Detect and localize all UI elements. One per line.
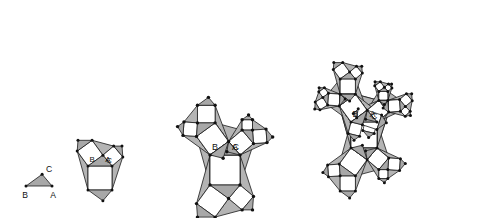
vertex-dot — [240, 118, 243, 121]
vertex-dot — [352, 139, 355, 142]
vertex-dot — [350, 121, 353, 124]
vertex-dot — [386, 90, 389, 93]
vertex-dot — [213, 104, 216, 107]
vertex-dot — [379, 80, 382, 83]
vertex-dot — [377, 99, 380, 102]
vertex-dot — [405, 92, 408, 95]
square-face — [210, 155, 240, 185]
vertex-dot — [361, 123, 364, 126]
vertex-dot — [347, 132, 350, 135]
vertex-label-b: B — [353, 109, 359, 119]
vertex-dot — [367, 136, 370, 139]
vertex-dot — [321, 96, 324, 99]
vertex-dot — [377, 177, 380, 180]
vertex-dot — [387, 82, 390, 85]
vertex-dot — [361, 144, 364, 147]
vertex-dot — [399, 110, 402, 113]
vertex-dot — [318, 86, 321, 89]
vertex-label-a: A — [50, 190, 56, 200]
vertex-dot — [51, 185, 54, 188]
square-face — [197, 105, 215, 123]
vertex-dot — [350, 147, 353, 150]
vertex-dot — [383, 181, 386, 184]
vertex-dot — [327, 92, 330, 95]
vertex-dot — [382, 107, 385, 110]
vertex-dot — [121, 145, 124, 148]
vertex-dot — [341, 61, 344, 64]
vertex-dot — [208, 183, 211, 186]
vertex-dot — [387, 111, 390, 114]
vertex-dot — [355, 65, 358, 68]
vertex-dot — [318, 108, 321, 111]
vertex-dot — [121, 155, 124, 158]
vertex-label-c: C — [233, 142, 240, 152]
square-face — [340, 79, 355, 94]
vertex-dot — [213, 121, 216, 124]
vertex-dot — [358, 135, 361, 138]
square-face — [183, 122, 197, 136]
vertex-dot — [101, 154, 104, 157]
vertex-dot — [327, 175, 330, 178]
recursive-construction-figure: BACBACBACBAC — [0, 0, 480, 218]
vertex-dot — [238, 153, 241, 156]
vertex-dot — [409, 110, 412, 113]
vertex-dot — [364, 149, 367, 152]
vertex-dot — [390, 82, 393, 85]
vertex-dot — [227, 197, 230, 200]
vertex-dot — [208, 153, 211, 156]
vertex-dot — [251, 118, 254, 121]
vertex-dot — [317, 90, 320, 93]
vertex-label-c: C — [46, 164, 52, 174]
vertex-dot — [377, 90, 380, 93]
vertex-dot — [111, 189, 114, 192]
vertex-dot — [376, 121, 379, 124]
vertex-dot — [366, 109, 369, 112]
vertex-label-c: C — [106, 156, 112, 165]
vertex-dot — [375, 128, 378, 131]
vertex-dot — [409, 114, 412, 117]
vertex-dot — [344, 98, 347, 101]
square-face — [388, 100, 401, 113]
vertex-dot — [247, 113, 250, 116]
vertex-dot — [181, 134, 184, 137]
vertex-dot — [91, 139, 94, 142]
vertex-dot — [41, 173, 44, 176]
vertex-dot — [338, 163, 341, 166]
vertex-dot — [376, 147, 379, 150]
square-face — [253, 129, 267, 143]
vertex-dot — [101, 199, 104, 202]
vertex-dot — [182, 120, 185, 123]
vertex-dot — [383, 103, 386, 106]
vertex-dot — [383, 86, 386, 89]
square-face — [340, 176, 355, 191]
square-face — [328, 93, 341, 106]
vertex-dot — [373, 132, 376, 135]
vertex-dot — [339, 77, 342, 80]
vertex-dot — [332, 61, 335, 64]
vertex-dot — [364, 118, 367, 121]
vertex-dot — [252, 195, 255, 198]
vertex-dot — [314, 101, 317, 104]
vertex-label-b: B — [22, 190, 28, 200]
vertex-dot — [227, 140, 230, 143]
vertex-dot — [404, 105, 407, 108]
vertex-dot — [251, 208, 254, 211]
vertex-dot — [264, 127, 267, 130]
vertex-dot — [111, 165, 114, 168]
vertex-dot — [361, 72, 364, 75]
vertex-dot — [386, 177, 389, 180]
vertex-dot — [321, 171, 324, 174]
vertex-dot — [326, 163, 329, 166]
vertex-dot — [338, 104, 341, 107]
vertex-dot — [25, 185, 28, 188]
vertex-dot — [354, 77, 357, 80]
vertex-dot — [238, 183, 241, 186]
vertex-dot — [404, 162, 407, 165]
vertex-dot — [348, 100, 351, 103]
vertex-dot — [221, 157, 224, 160]
vertex-dot — [87, 189, 90, 192]
square-face — [328, 164, 341, 177]
vertex-dot — [404, 115, 407, 118]
vertex-dot — [112, 145, 115, 148]
vertex-dot — [354, 93, 357, 96]
